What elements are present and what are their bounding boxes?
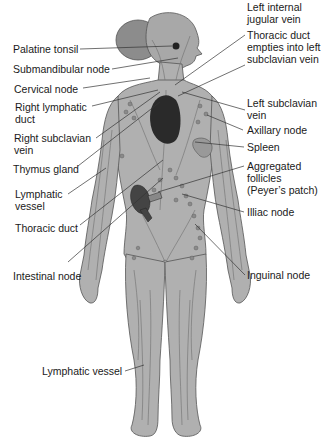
palatine-tonsil-shape (173, 43, 180, 50)
label-cervical-node: Cervical node (14, 83, 78, 95)
label-right-lymphatic-duct: Right lymphatic duct (15, 101, 87, 125)
label-illiac-node: Illiac node (247, 206, 294, 218)
label-intestinal-node: Intestinal node (13, 270, 81, 282)
label-thoracic-duct-empties: Thoracic duct empties into left subclavi… (247, 29, 321, 65)
label-lymphatic-vessel-arm: Lymphatic vessel (15, 188, 62, 212)
label-axillary-node: Axillary node (247, 124, 307, 136)
label-thoracic-duct: Thoracic duct (15, 222, 78, 234)
label-lymphatic-vessel-leg: Lymphatic vessel (42, 365, 122, 377)
label-left-subclavian-vein: Left subclavian vein (247, 97, 317, 121)
label-submandibular-node: Submandibular node (13, 63, 110, 75)
lymphatic-system-diagram: Palatine tonsil Submandibular node Cervi… (0, 0, 327, 442)
label-spleen: Spleen (247, 141, 280, 153)
label-right-subclavian-vein: Right subclavian vein (14, 132, 91, 156)
label-aggregated-follicles: Aggregated follicles (Peyer’s patch) (247, 160, 318, 196)
label-palatine-tonsil: Palatine tonsil (13, 43, 78, 55)
label-thymus-gland: Thymus gland (13, 163, 79, 175)
label-left-internal-jugular-vein: Left internal jugular vein (247, 1, 302, 25)
label-inguinal-node: Inguinal node (247, 269, 310, 281)
